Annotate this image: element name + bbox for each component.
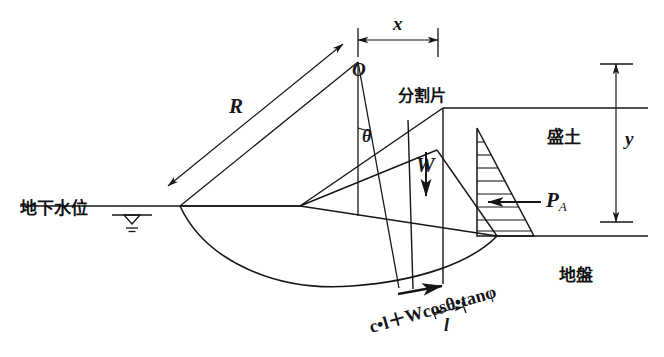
groundwater-level-label: 地下水位 (20, 200, 88, 217)
theta-angle-label: θ (362, 127, 371, 145)
ground-label: 地盤 (559, 267, 593, 284)
diagram-canvas (0, 0, 664, 357)
radius-dimension-arrow (168, 44, 343, 186)
slice-boundary-lines (408, 108, 443, 289)
weight-label: W (416, 155, 435, 176)
embankment-label: 盛土 (547, 129, 581, 146)
slice-label: 分割片 (398, 88, 446, 104)
radius-label: R (229, 96, 243, 117)
earth-pressure-label: PA (546, 190, 567, 213)
slope-stability-figure: O R x y θ W 分割片 盛土 地盤 地下水位 PA c•l＋Wcosθ•… (0, 0, 664, 357)
earth-pressure-triangle (477, 128, 534, 236)
slice-base-length-label: l (444, 316, 449, 334)
center-point-label: O (352, 60, 366, 79)
x-dimension-label: x (393, 14, 403, 33)
earth-pressure-subscript: A (559, 199, 567, 214)
shear-resistance-arrow (398, 286, 442, 294)
radius-to-slice-base (358, 62, 399, 288)
earth-pressure-symbol: P (546, 188, 559, 212)
slip-circle-arc (180, 206, 497, 287)
y-dimension-label: y (625, 129, 633, 148)
wedge-lines (300, 150, 497, 236)
water-table-symbol (112, 215, 152, 232)
